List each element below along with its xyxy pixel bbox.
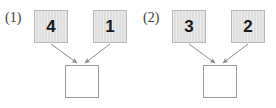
panel-2: (2) 3 2 bbox=[138, 0, 276, 108]
edge-right-to-output bbox=[223, 44, 248, 63]
panel-1: (1) 4 1 bbox=[0, 0, 138, 108]
panel-1-input-node-2-label: 1 bbox=[105, 18, 114, 35]
panel-2-output-node[interactable] bbox=[203, 65, 237, 98]
panel-2-input-node-2-label: 2 bbox=[243, 18, 252, 35]
panel-2-input-node-2[interactable]: 2 bbox=[231, 10, 265, 43]
figure-canvas: (1) 4 1 (2) bbox=[0, 0, 276, 108]
panel-2-input-node-1[interactable]: 3 bbox=[172, 10, 206, 43]
edge-right-to-output bbox=[85, 44, 110, 63]
panel-1-input-node-2[interactable]: 1 bbox=[93, 10, 127, 43]
panel-1-input-node-1[interactable]: 4 bbox=[34, 10, 68, 43]
panel-1-output-node[interactable] bbox=[65, 65, 99, 98]
edge-left-to-output bbox=[189, 44, 215, 63]
panel-1-input-node-1-label: 4 bbox=[46, 18, 55, 35]
edge-left-to-output bbox=[51, 44, 77, 63]
panel-2-input-node-1-label: 3 bbox=[184, 18, 193, 35]
